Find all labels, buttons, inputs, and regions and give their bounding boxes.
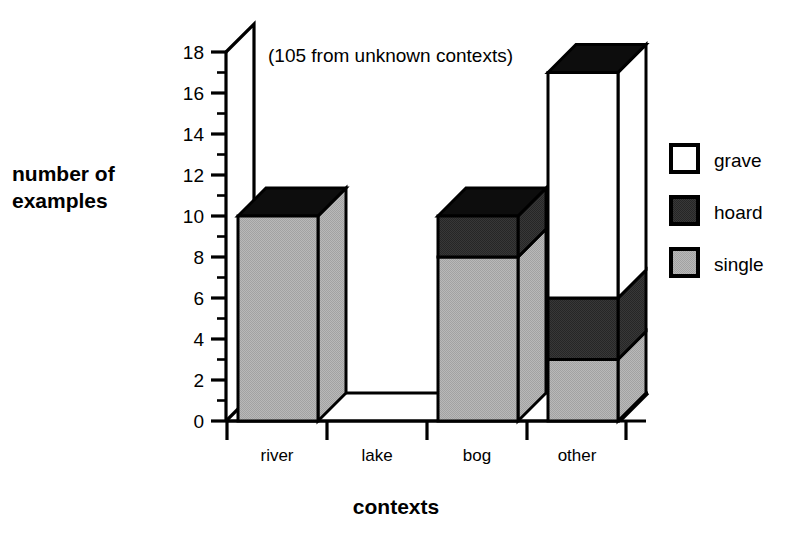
x-category-label-river: river: [260, 446, 293, 465]
annotation-unknown-contexts: (105 from unknown contexts): [268, 45, 513, 66]
y-tick-label: 6: [193, 288, 204, 309]
bar-bog[interactable]: [438, 188, 546, 421]
bar-other-grave-front: [548, 73, 618, 299]
bar-other[interactable]: [548, 45, 646, 422]
chart-container: number of examples contexts 18 16 14 12 …: [0, 0, 792, 533]
y-tick-label: 12: [183, 165, 204, 186]
legend-label-single: single: [714, 254, 764, 275]
bar-river-single-side: [318, 188, 346, 421]
legend-swatch-single: [671, 249, 698, 276]
bar-other-hoard-front: [548, 298, 618, 360]
legend-swatch-hoard: [671, 197, 698, 224]
bar-bog-single-front: [438, 257, 518, 421]
y-tick-label: 0: [193, 411, 204, 432]
x-category-label-lake: lake: [361, 446, 392, 465]
bar-other-single-front: [548, 360, 618, 422]
y-tick-label: 18: [183, 42, 204, 63]
y-axis-title-line1: number of: [12, 162, 116, 185]
y-axis-title-line2: examples: [12, 189, 108, 212]
y-tick-label: 4: [193, 329, 204, 350]
x-category-label-bog: bog: [463, 446, 491, 465]
bar-bog-hoard-front: [438, 216, 518, 257]
y-tick-label: 8: [193, 247, 204, 268]
legend-item-single[interactable]: single: [671, 249, 764, 276]
bar-chart-svg: number of examples contexts 18 16 14 12 …: [0, 0, 792, 533]
y-tick-label: 16: [183, 83, 204, 104]
y-tick-label: 10: [183, 206, 204, 227]
legend-item-hoard[interactable]: hoard: [671, 197, 763, 224]
bar-river[interactable]: [238, 188, 346, 421]
y-tick-label: 2: [193, 370, 204, 391]
x-category-label-other: other: [558, 446, 597, 465]
legend-item-grave[interactable]: grave: [671, 145, 762, 172]
x-axis-title: contexts: [353, 495, 439, 518]
legend-swatch-grave: [671, 145, 698, 172]
bar-river-single-front: [238, 216, 318, 421]
y-tick-label: 14: [183, 124, 205, 145]
legend-label-grave: grave: [714, 150, 762, 171]
bar-other-grave-side: [618, 45, 646, 299]
legend: grave hoard single: [671, 145, 764, 276]
bar-bog-single-side: [518, 229, 546, 421]
legend-label-hoard: hoard: [714, 202, 763, 223]
